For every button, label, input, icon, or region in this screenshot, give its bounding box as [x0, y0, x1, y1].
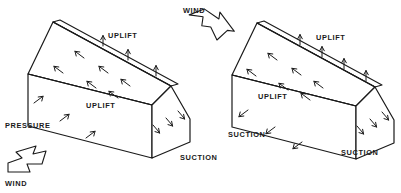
label-wind-top: WIND	[183, 6, 205, 15]
label-suction-right-wall: SUCTION	[228, 130, 265, 139]
wind-arrow-bottom	[8, 146, 46, 172]
label-suction-right-gable: SUCTION	[341, 148, 378, 157]
wind-load-diagram: UPLIFT UPLIFT PRESSURE SUCTION	[0, 0, 401, 193]
left-house	[28, 20, 190, 158]
label-pressure-left-wall: PRESSURE	[5, 121, 50, 130]
label-wind-bottom: WIND	[5, 179, 27, 188]
label-uplift-left-roof-lower: UPLIFT	[86, 101, 115, 110]
label-suction-left-gable: SUCTION	[180, 153, 217, 162]
label-uplift-right-roof-lower: UPLIFT	[258, 92, 287, 101]
diagram-canvas: UPLIFT UPLIFT PRESSURE SUCTION	[0, 0, 401, 193]
label-uplift-left-roof-upper: UPLIFT	[108, 31, 137, 40]
label-uplift-right-roof-upper: UPLIFT	[316, 33, 345, 42]
